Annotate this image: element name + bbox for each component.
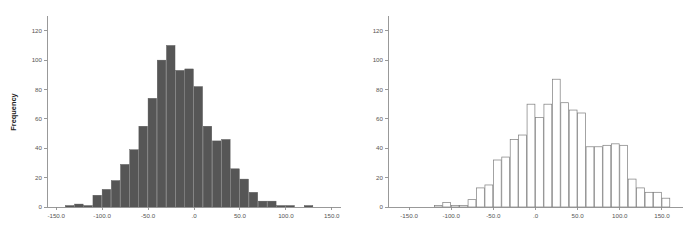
left-histogram-panel: 020406080100120 -150.0-100.0-50.0.050.01… <box>0 0 345 226</box>
histogram-bar <box>502 157 510 207</box>
histogram-bar <box>561 103 569 207</box>
x-tick-label: -150.0 <box>400 212 418 219</box>
histogram-bar <box>139 126 148 207</box>
histogram-bar <box>645 192 653 207</box>
histogram-bar <box>611 144 619 207</box>
y-tick-label: 80 <box>35 86 42 93</box>
histogram-bar <box>240 179 249 207</box>
histogram-bar <box>527 104 535 207</box>
y-tick-label: 0 <box>380 203 384 210</box>
y-tick-label: 120 <box>32 27 43 34</box>
right-y-ticks: 020406080100120 <box>373 27 388 210</box>
histogram-bar <box>569 110 577 207</box>
x-tick-label: .0 <box>533 212 539 219</box>
figure-canvas: 020406080100120 -150.0-100.0-50.0.050.01… <box>0 0 687 226</box>
histogram-bar <box>102 189 111 207</box>
histogram-bar <box>111 181 120 207</box>
x-tick-label: 150.0 <box>654 212 670 219</box>
histogram-bar <box>620 145 628 207</box>
x-tick-label: 50.0 <box>572 212 585 219</box>
histogram-bar <box>222 139 231 207</box>
left-bars-group <box>65 45 312 207</box>
histogram-bar <box>595 147 603 207</box>
y-tick-label: 120 <box>373 27 384 34</box>
histogram-bar <box>552 79 560 207</box>
histogram-bar <box>603 145 611 207</box>
x-tick-label: 100.0 <box>278 212 294 219</box>
histogram-bar <box>468 200 476 207</box>
left-x-ticks: -150.0-100.0-50.0.050.0100.0150.0 <box>47 207 340 219</box>
histogram-bar <box>249 192 258 207</box>
right-bars-group <box>434 79 669 207</box>
histogram-bar <box>493 160 501 207</box>
left-y-ticks: 020406080100120 <box>32 27 47 210</box>
histogram-bar <box>443 203 451 207</box>
histogram-bar <box>586 147 594 207</box>
histogram-bar <box>519 135 527 207</box>
histogram-bar <box>148 98 157 207</box>
histogram-bar <box>185 69 194 207</box>
y-tick-label: 100 <box>32 56 43 63</box>
x-tick-label: 100.0 <box>612 212 628 219</box>
histogram-bar <box>231 169 240 207</box>
histogram-bar <box>654 192 662 207</box>
histogram-bar <box>203 126 212 207</box>
x-tick-label: -150.0 <box>47 212 65 219</box>
x-tick-label: -100.0 <box>93 212 111 219</box>
histogram-bar <box>510 139 518 207</box>
histogram-bar <box>485 185 493 207</box>
histogram-bar <box>157 60 166 207</box>
histogram-bar <box>662 198 670 207</box>
y-tick-label: 20 <box>376 174 383 181</box>
histogram-bar <box>166 45 175 207</box>
y-tick-label: 40 <box>35 144 42 151</box>
y-tick-label: 0 <box>39 203 43 210</box>
histogram-bar <box>536 117 544 207</box>
histogram-bar <box>130 150 139 207</box>
histogram-bar <box>176 70 185 207</box>
left-histogram-plot: 020406080100120 -150.0-100.0-50.0.050.01… <box>0 0 345 226</box>
y-tick-label: 60 <box>376 115 383 122</box>
right-histogram-panel: 020406080100120 -150.0-100.0-50.0.050.01… <box>345 0 687 226</box>
histogram-bar <box>212 141 221 207</box>
histogram-bar <box>121 164 130 207</box>
x-tick-label: 150.0 <box>324 212 340 219</box>
histogram-bar <box>628 179 636 207</box>
histogram-bar <box>194 87 203 207</box>
x-tick-label: -100.0 <box>442 212 460 219</box>
right-x-ticks: -150.0-100.0-50.0.050.0100.0150.0 <box>400 207 670 219</box>
histogram-bar <box>544 104 552 207</box>
right-histogram-plot: 020406080100120 -150.0-100.0-50.0.050.01… <box>345 0 687 226</box>
y-tick-label: 40 <box>376 144 383 151</box>
histogram-bar <box>258 201 267 207</box>
y-tick-label: 60 <box>35 115 42 122</box>
histogram-bar <box>477 188 485 207</box>
histogram-bar <box>93 195 102 207</box>
x-tick-label: -50.0 <box>486 212 501 219</box>
histogram-bar <box>578 113 586 207</box>
x-tick-label: .0 <box>191 212 197 219</box>
histogram-bar <box>637 188 645 207</box>
histogram-bar <box>268 201 277 207</box>
y-tick-label: 20 <box>35 174 42 181</box>
x-tick-label: 50.0 <box>234 212 247 219</box>
y-tick-label: 100 <box>373 56 384 63</box>
x-tick-label: -50.0 <box>141 212 156 219</box>
y-tick-label: 80 <box>376 86 383 93</box>
left-y-axis-title: Frequency <box>9 92 18 130</box>
